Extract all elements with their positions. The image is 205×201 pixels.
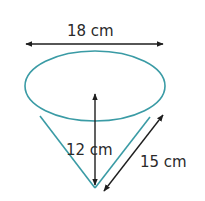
cone-diagram: 18 cm 12 cm 15 cm (0, 0, 205, 201)
diameter-label: 18 cm (67, 22, 114, 40)
slant-height-label: 15 cm (140, 153, 187, 171)
cone-figure: 18 cm 12 cm 15 cm (0, 0, 205, 201)
height-label: 12 cm (66, 141, 113, 159)
